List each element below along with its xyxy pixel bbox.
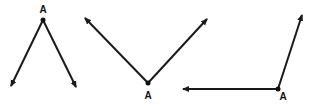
ray-arrow (85, 18, 148, 83)
vertex-label: A (279, 91, 286, 102)
angle-3: A (183, 15, 302, 102)
vertex-label: A (144, 90, 151, 101)
vertex-label: A (39, 4, 46, 15)
angles-diagram: A A A (0, 0, 316, 105)
ray-arrow (11, 20, 43, 86)
vertex-point (41, 18, 46, 23)
vertex-point (146, 81, 151, 86)
angle-1: A (11, 4, 76, 87)
ray-arrow (278, 15, 302, 89)
ray-arrow (148, 19, 207, 83)
ray-arrow (43, 20, 76, 87)
